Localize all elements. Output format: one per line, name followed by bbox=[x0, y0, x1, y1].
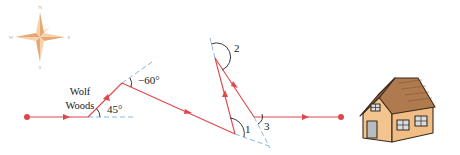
angle-label-1: 1 bbox=[245, 123, 251, 135]
diagram-canvas: N E S W Wolf Woods bbox=[0, 0, 460, 155]
angle-label-minus60: −60° bbox=[138, 74, 160, 86]
compass-rose-icon: N E S W bbox=[9, 5, 71, 70]
compass-west-label: W bbox=[9, 35, 14, 40]
angle-label-45: 45° bbox=[107, 103, 122, 115]
house-icon bbox=[360, 78, 435, 142]
landmark-label-line1: Wolf bbox=[70, 86, 91, 97]
compass-east-label: E bbox=[67, 35, 70, 40]
reference-lines bbox=[88, 38, 270, 148]
angle-arcs bbox=[97, 43, 263, 137]
angle-label-2: 2 bbox=[234, 42, 240, 54]
angle-label-3: 3 bbox=[264, 120, 270, 132]
end-point bbox=[338, 114, 344, 120]
compass-north-label: N bbox=[38, 5, 42, 10]
start-point bbox=[24, 114, 30, 120]
landmark-label-line2: Woods bbox=[66, 100, 95, 111]
compass-south-label: S bbox=[39, 65, 42, 70]
